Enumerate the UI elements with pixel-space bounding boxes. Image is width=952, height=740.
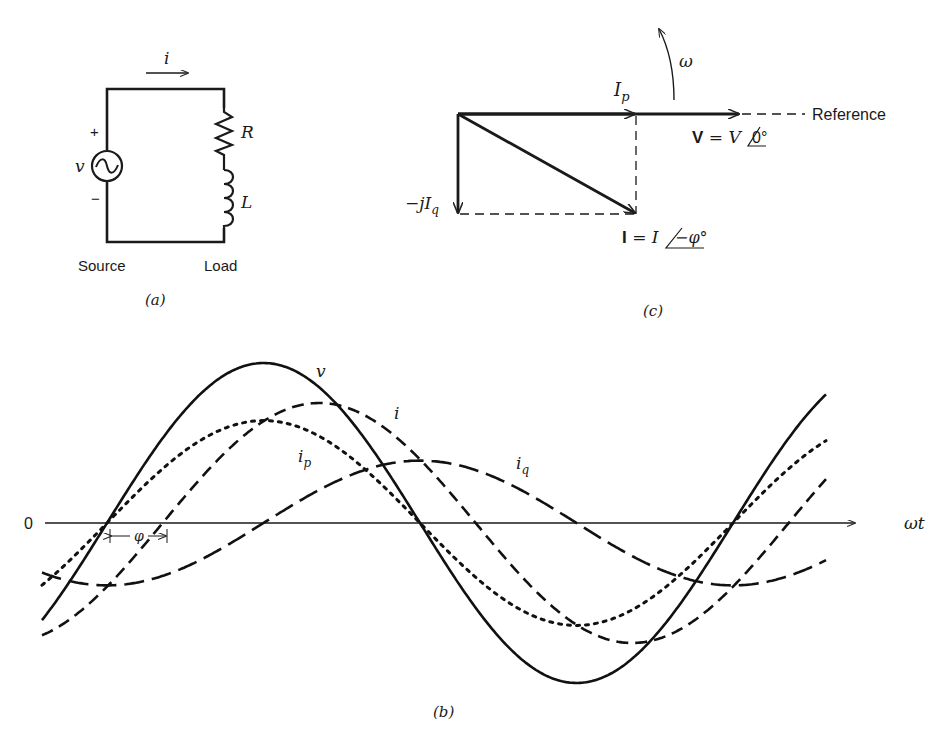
panel-a-caption: (a)	[145, 291, 166, 309]
svg-text:V = V: V = V	[692, 127, 742, 147]
phi-label: φ	[134, 528, 144, 544]
x-axis-label: ωt	[904, 513, 925, 533]
minus-sign: −	[91, 190, 100, 207]
reference-label: Reference	[812, 106, 886, 123]
curve-label-iq: iq	[516, 453, 529, 477]
i-phasor-arrow	[458, 114, 635, 213]
curve-label-i: i	[394, 403, 399, 423]
current-label: i	[164, 48, 169, 68]
voltage-label: v	[75, 156, 85, 176]
v-angle-value: 0°	[752, 129, 767, 146]
resistor-label: R	[240, 122, 254, 142]
circuit-diagram	[92, 73, 233, 242]
rotation-arrow-icon	[659, 29, 674, 100]
omega-label: ω	[679, 51, 693, 71]
ip-label: Ip	[613, 79, 630, 104]
sine-wave-glyph	[96, 159, 118, 172]
plus-sign: +	[90, 123, 99, 140]
panel-c-caption: (c)	[643, 302, 663, 320]
iq-label: −jIq	[405, 193, 439, 217]
source-caption: Source	[78, 257, 126, 274]
origin-label: 0	[24, 515, 33, 532]
v-phasor-label: V = V 0°	[692, 127, 767, 147]
load-caption: Load	[204, 257, 237, 274]
resistor-icon	[216, 108, 232, 170]
circuit-wire-left-top	[107, 89, 224, 150]
curve-label-v: v	[316, 361, 326, 381]
svg-text:I = I: I = I	[622, 227, 659, 247]
i-phasor-label: I = I −φ°	[622, 227, 708, 248]
inductor-label: L	[240, 192, 252, 212]
figure-canvas: i v R L (a) + − Source Load Ip ω Referen…	[0, 0, 952, 740]
panel-b-caption: (b)	[433, 703, 454, 721]
inductor-icon	[224, 170, 233, 228]
circuit-wire-left-bottom	[107, 181, 224, 242]
phasor-diagram	[458, 29, 805, 214]
waveform-plot	[42, 363, 855, 683]
curve-label-ip: ip	[298, 446, 311, 470]
